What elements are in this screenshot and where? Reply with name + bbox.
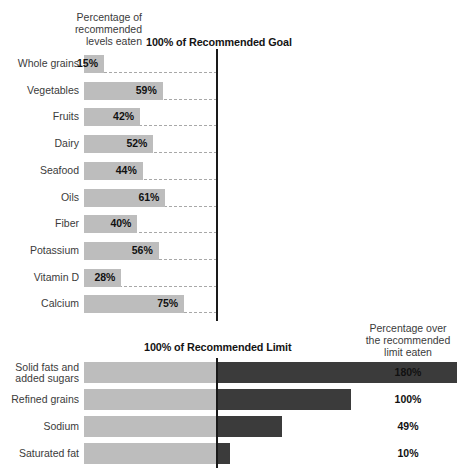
top-chart-plot-area: Whole grains15%Vegetables59%Fruits42%Dai… bbox=[0, 55, 471, 323]
table-row: Solid fats and added sugars180% bbox=[0, 362, 471, 389]
category-label: Vitamin D bbox=[0, 272, 79, 284]
bar-value-label: 61% bbox=[138, 191, 159, 203]
table-row: Fruits42% bbox=[0, 108, 471, 135]
over-value-label: 10% bbox=[378, 447, 438, 459]
bar-value-label: 28% bbox=[94, 271, 115, 283]
table-row: Vitamin D28% bbox=[0, 269, 471, 296]
bar-base-segment bbox=[84, 443, 217, 464]
bar-value-label: 42% bbox=[113, 110, 134, 122]
category-label: Fruits bbox=[0, 111, 79, 123]
table-row: Dairy52% bbox=[0, 135, 471, 162]
table-row: Sodium49% bbox=[0, 416, 471, 443]
bottom-chart-title: 100% of Recommended Limit bbox=[144, 341, 292, 353]
table-row: Fiber40% bbox=[0, 215, 471, 242]
category-label: Refined grains bbox=[0, 394, 79, 406]
table-row: Vegetables59% bbox=[0, 82, 471, 109]
bar-base-segment bbox=[84, 389, 217, 410]
bar-over-segment bbox=[217, 416, 282, 437]
over-value-label: 100% bbox=[378, 393, 438, 405]
bar-value-label: 15% bbox=[77, 57, 98, 69]
bar-value-label: 59% bbox=[136, 84, 157, 96]
over-value-label: 180% bbox=[378, 366, 438, 378]
bar-value-label: 56% bbox=[132, 244, 153, 256]
bottom-chart-plot-area: Solid fats and added sugars180%Refined g… bbox=[0, 362, 471, 468]
category-label: Potassium bbox=[0, 245, 79, 257]
table-row: Saturated fat10% bbox=[0, 443, 471, 470]
table-row: Calcium75% bbox=[0, 295, 471, 322]
table-row: Whole grains15% bbox=[0, 55, 471, 82]
category-label: Oils bbox=[0, 192, 79, 204]
table-row: Potassium56% bbox=[0, 242, 471, 269]
table-row: Oils61% bbox=[0, 189, 471, 216]
bar-base-segment bbox=[84, 416, 217, 437]
bottom-chart-right-header: Percentage over the recommended limit ea… bbox=[348, 322, 468, 359]
bar-value-label: 52% bbox=[126, 137, 147, 149]
category-label: Sodium bbox=[0, 421, 79, 433]
category-label: Dairy bbox=[0, 138, 79, 150]
bar-over-segment bbox=[217, 389, 351, 410]
top-chart-reference-axis bbox=[216, 49, 218, 321]
category-label: Fiber bbox=[0, 218, 79, 230]
bottom-chart-reference-axis bbox=[216, 358, 218, 468]
category-label: Solid fats and added sugars bbox=[0, 362, 79, 385]
category-label: Calcium bbox=[0, 298, 79, 310]
bar-value-label: 44% bbox=[116, 164, 137, 176]
over-value-label: 49% bbox=[378, 420, 438, 432]
bar-over-segment bbox=[217, 443, 230, 464]
bar-base-segment bbox=[84, 362, 217, 383]
table-row: Refined grains100% bbox=[0, 389, 471, 416]
category-label: Vegetables bbox=[0, 85, 79, 97]
category-label: Saturated fat bbox=[0, 448, 79, 460]
bar-value-label: 40% bbox=[110, 217, 131, 229]
top-chart-left-header: Percentage of recommended levels eaten bbox=[44, 11, 142, 48]
nutrition-bar-chart-figure: Percentage of recommended levels eaten 1… bbox=[0, 0, 471, 476]
bar-value-label: 75% bbox=[157, 297, 178, 309]
category-label: Seafood bbox=[0, 165, 79, 177]
table-row: Seafood44% bbox=[0, 162, 471, 189]
top-chart-title: 100% of Recommended Goal bbox=[146, 36, 292, 48]
category-label: Whole grains bbox=[0, 58, 79, 70]
